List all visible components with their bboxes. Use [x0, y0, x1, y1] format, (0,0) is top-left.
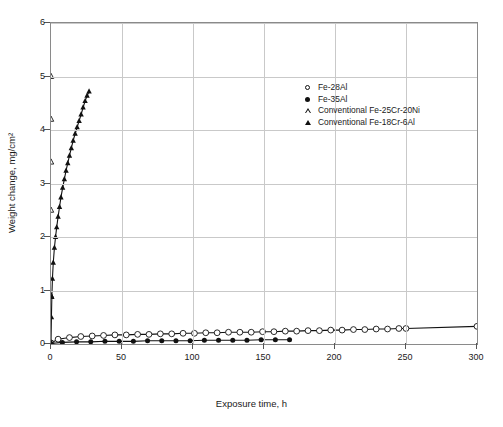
- series-line: [51, 340, 290, 344]
- x-tick-mark: [192, 343, 193, 349]
- x-tick-label: 250: [397, 352, 412, 362]
- y-tick-label: 4: [40, 124, 45, 134]
- x-axis-label: Exposure time, h: [0, 398, 503, 409]
- data-point: [237, 329, 243, 335]
- data-point: [51, 207, 54, 212]
- data-point: [82, 98, 87, 103]
- legend-marker: [305, 108, 311, 113]
- data-point: [88, 339, 93, 344]
- data-point: [55, 213, 60, 218]
- data-point: [339, 327, 345, 333]
- data-point: [112, 332, 118, 338]
- x-tick-label: 100: [184, 352, 199, 362]
- data-point: [203, 330, 209, 336]
- data-point: [51, 294, 55, 299]
- data-point: [51, 116, 54, 121]
- data-point: [55, 336, 61, 342]
- circle-open-icon: [305, 85, 318, 90]
- data-point: [58, 194, 63, 199]
- data-point: [67, 152, 72, 157]
- x-tick-label: 300: [468, 352, 483, 362]
- legend-label: Fe-28Al: [318, 82, 347, 94]
- x-tick-label: 200: [326, 352, 341, 362]
- legend-item: Fe-35Al: [305, 94, 420, 106]
- x-tick-label: 150: [255, 352, 270, 362]
- data-point: [74, 339, 79, 344]
- y-tick-label: 2: [40, 231, 45, 241]
- data-point: [86, 88, 91, 93]
- x-tick-mark: [476, 343, 477, 349]
- data-point: [78, 334, 84, 340]
- data-point: [135, 331, 141, 337]
- y-tick-label: 0: [40, 338, 45, 348]
- x-tick-mark: [405, 343, 406, 349]
- data-point: [67, 335, 73, 341]
- data-point: [76, 118, 81, 123]
- gridline-vertical: [122, 23, 123, 344]
- data-point: [102, 339, 107, 344]
- chart-legend: Fe-28AlFe-35AlConventional Fe-25Cr-20NiC…: [305, 82, 420, 128]
- x-tick-mark: [263, 343, 264, 349]
- data-point: [305, 328, 311, 334]
- data-point: [226, 329, 232, 335]
- data-point: [169, 331, 175, 337]
- data-point: [294, 328, 300, 334]
- x-tick-mark: [50, 343, 51, 349]
- x-tick-mark: [121, 343, 122, 349]
- data-point: [328, 327, 334, 333]
- data-point: [60, 185, 65, 190]
- legend-item: Conventional Fe-18Cr-6Al: [305, 117, 420, 129]
- data-point: [271, 329, 277, 335]
- data-point: [248, 329, 254, 335]
- data-point: [78, 111, 83, 116]
- data-point: [351, 327, 357, 333]
- data-point: [214, 330, 220, 336]
- data-point: [52, 244, 57, 249]
- data-point: [131, 339, 136, 344]
- data-point: [51, 159, 54, 164]
- data-point: [373, 326, 379, 332]
- legend-label: Fe-35Al: [318, 94, 347, 106]
- figure: Weight change, mg/cm² 0123456 0501001502…: [0, 0, 503, 427]
- y-axis-label: Weight change, mg/cm²: [6, 133, 17, 233]
- data-point: [180, 330, 186, 336]
- data-point: [396, 326, 402, 332]
- legend-item: Conventional Fe-25Cr-20Ni: [305, 105, 420, 117]
- legend-marker: [305, 97, 310, 102]
- legend-label: Conventional Fe-25Cr-20Ni: [318, 105, 420, 117]
- data-point: [51, 259, 56, 264]
- x-tick-label: 50: [116, 352, 126, 362]
- data-point: [101, 333, 107, 339]
- tri-fill-icon: [305, 120, 318, 125]
- legend-item: Fe-28Al: [305, 82, 420, 94]
- data-point: [70, 137, 75, 142]
- data-point: [145, 338, 150, 343]
- data-point: [202, 338, 207, 343]
- data-point: [159, 338, 164, 343]
- y-tick-label: 6: [40, 17, 45, 27]
- data-point: [259, 337, 264, 342]
- x-tick-mark: [334, 343, 335, 349]
- data-point: [282, 328, 288, 334]
- legend-marker: [305, 120, 311, 125]
- data-point: [89, 333, 95, 339]
- data-point: [474, 323, 477, 329]
- data-point: [157, 331, 163, 337]
- plot-area: [50, 22, 478, 345]
- data-point: [273, 337, 278, 342]
- data-point: [173, 338, 178, 343]
- data-point: [65, 160, 70, 165]
- data-point: [74, 124, 79, 129]
- circle-fill-icon: [305, 97, 318, 102]
- data-point: [146, 331, 152, 337]
- data-point: [54, 224, 59, 229]
- data-point: [80, 104, 85, 109]
- data-point: [362, 327, 368, 333]
- data-point: [69, 145, 74, 150]
- gridline-vertical: [264, 23, 265, 344]
- data-point: [316, 328, 322, 334]
- gridline-vertical: [193, 23, 194, 344]
- gridline-vertical: [406, 23, 407, 344]
- data-point: [385, 326, 391, 332]
- data-point: [51, 314, 54, 319]
